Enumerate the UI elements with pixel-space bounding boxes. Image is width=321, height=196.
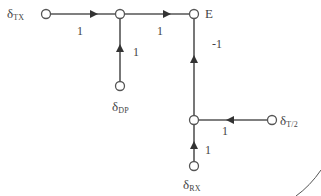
arrow-up-icon <box>190 55 198 63</box>
arrow-up-icon <box>190 141 198 149</box>
arrow-right-icon <box>163 10 171 18</box>
arrow-left-icon <box>226 116 234 124</box>
label-tx: δTX <box>7 7 24 22</box>
node-junction-1 <box>116 10 125 19</box>
label-dp: δDP <box>112 100 129 115</box>
gain-dp-j1: 1 <box>133 46 139 58</box>
node-tx <box>42 10 51 19</box>
label-t2: δT/2 <box>280 114 298 129</box>
node-e <box>190 10 199 19</box>
node-dp <box>116 82 125 91</box>
page-curl <box>296 170 321 196</box>
label-e: E <box>205 7 213 20</box>
gain-tx-j1: 1 <box>77 25 83 37</box>
node-t2 <box>268 116 277 125</box>
gain-t2-j2: 1 <box>222 125 228 137</box>
node-junction-2 <box>190 116 199 125</box>
arrow-right-icon <box>90 10 98 18</box>
label-rx: δRX <box>183 178 201 193</box>
gain-j2-e: -1 <box>212 38 222 50</box>
arrow-up-icon <box>116 44 124 52</box>
node-rx <box>190 162 199 171</box>
gain-rx-j2: 1 <box>205 144 211 156</box>
gain-j1-e: 1 <box>157 25 163 37</box>
